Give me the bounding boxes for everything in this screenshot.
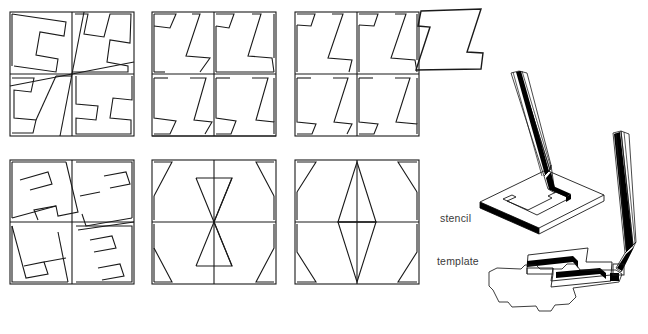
figure-canvas bbox=[0, 0, 648, 334]
single-z-tile bbox=[416, 9, 483, 70]
figure-svg bbox=[0, 0, 648, 334]
stencil-pencil bbox=[511, 71, 556, 193]
panel-triangle-pair-tiling bbox=[295, 160, 419, 284]
panel-bowtie-tiling bbox=[152, 160, 276, 284]
panel-slanted-z-tiling bbox=[152, 12, 276, 136]
template-pencil bbox=[613, 131, 636, 275]
panel-pinwheel-z-tiling bbox=[10, 12, 134, 136]
panel-steep-z-tiling bbox=[295, 12, 419, 136]
stencil-illustration bbox=[480, 170, 604, 234]
template-illustration bbox=[489, 248, 622, 311]
panel-rotated-pinwheel-tiling bbox=[10, 160, 134, 284]
stencil-label: stencil bbox=[440, 212, 471, 224]
template-label: template bbox=[437, 255, 479, 267]
